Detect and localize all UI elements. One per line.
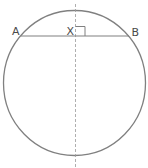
label-a: A: [12, 25, 20, 38]
circle: [4, 11, 146, 156]
label-b: B: [132, 26, 140, 39]
right-angle-marker: [76, 27, 86, 37]
label-x: X: [67, 25, 75, 38]
circle-chord-diagram: A X B: [0, 0, 148, 168]
